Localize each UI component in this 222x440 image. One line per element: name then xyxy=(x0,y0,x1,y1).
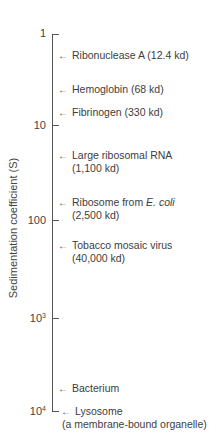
left-arrow-icon: ← xyxy=(58,196,72,209)
left-arrow-icon: ← xyxy=(58,382,72,395)
axis-line xyxy=(52,34,53,412)
left-arrow-icon: ← xyxy=(58,83,72,96)
item-fibrinogen: ←Fibrinogen (330 kd) xyxy=(58,106,163,119)
left-arrow-icon: ← xyxy=(58,149,72,162)
item-large-ribosomal-rna: ←Large ribosomal RNA (1,100 kd) xyxy=(58,149,172,175)
left-arrow-icon: ← xyxy=(61,405,75,418)
tick-label-10000: 104 xyxy=(2,406,46,417)
tick-label-10: 10 xyxy=(2,120,46,131)
left-arrow-icon: ← xyxy=(58,49,72,62)
item-bacterium: ←Bacterium xyxy=(58,382,119,395)
tick-label-100: 100 xyxy=(2,215,46,226)
left-arrow-icon: ← xyxy=(58,239,72,252)
tick-10 xyxy=(52,125,59,126)
left-arrow-icon: ← xyxy=(58,106,72,119)
item-lysosome: ←Lysosome (a membrane-bound organelle) xyxy=(61,405,207,431)
tick-1 xyxy=(52,34,59,35)
item-hemoglobin: ←Hemoglobin (68 kd) xyxy=(58,83,164,96)
y-axis-label: Sedimentation coefficient (S) xyxy=(7,153,19,303)
tick-1000 xyxy=(52,318,59,319)
tick-label-1: 1 xyxy=(2,28,46,39)
item-ribosome-ecoli: ←Ribosome from E. coli (2,500 kd) xyxy=(58,196,175,222)
tick-label-1000: 103 xyxy=(2,313,46,324)
item-tobacco-mosaic-virus: ←Tobacco mosaic virus (40,000 kd) xyxy=(58,239,172,265)
item-ribonuclease: ←Ribonuclease A (12.4 kd) xyxy=(58,49,189,62)
tick-10000 xyxy=(52,411,59,412)
